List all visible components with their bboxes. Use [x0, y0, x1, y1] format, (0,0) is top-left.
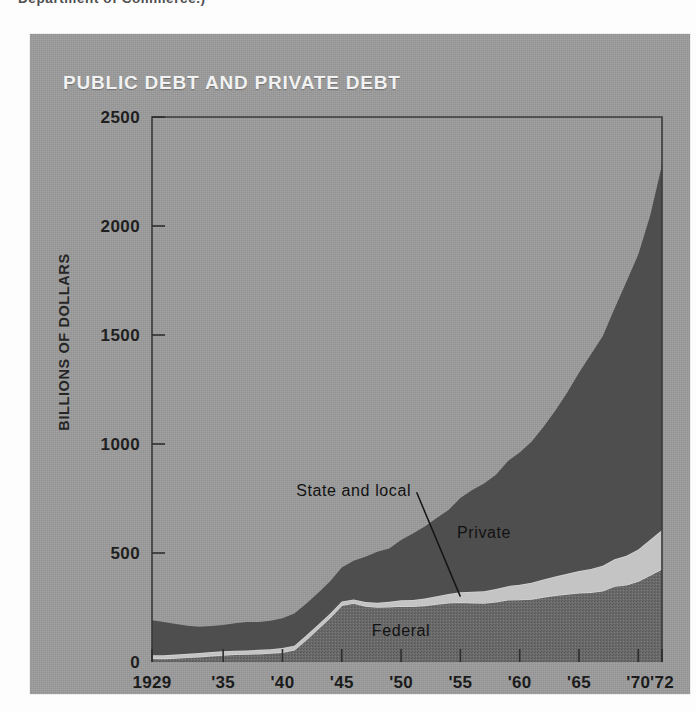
- y-tick-label: 2000: [101, 217, 140, 236]
- x-tick-label: '40: [271, 673, 295, 692]
- annotation-federal: Federal: [372, 622, 430, 639]
- annotation-private: Private: [457, 524, 511, 541]
- stacked-area-chart: 05001000150020002500 1929'35'40'45'50'55…: [30, 34, 690, 694]
- x-tick-label: 1929: [132, 673, 171, 692]
- x-tick-label: '65: [567, 673, 591, 692]
- chart-figure-panel: PUBLIC DEBT AND PRIVATE DEBT BILLIONS OF…: [30, 34, 690, 694]
- x-tick-label: '55: [448, 673, 472, 692]
- y-tick-label: 1000: [101, 435, 140, 454]
- y-axis-ticks: 05001000150020002500: [101, 108, 165, 672]
- y-tick-label: 1500: [101, 326, 140, 345]
- area-series-group: [152, 165, 662, 662]
- x-tick-label: '70: [626, 673, 650, 692]
- y-tick-label: 2500: [101, 108, 140, 127]
- x-tick-label: '72: [650, 673, 674, 692]
- y-tick-label: 500: [110, 544, 140, 563]
- x-tick-label: '60: [508, 673, 532, 692]
- x-tick-label: '45: [330, 673, 354, 692]
- x-tick-label: '50: [389, 673, 413, 692]
- caption-fragment: Department of Commerce.): [18, 0, 438, 13]
- x-tick-label: '35: [211, 673, 235, 692]
- annotation-state-and-local: State and local: [296, 482, 411, 499]
- y-tick-label: 0: [130, 653, 140, 672]
